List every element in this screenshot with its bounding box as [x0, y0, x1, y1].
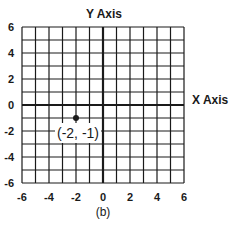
axes — [22, 27, 184, 183]
x-tick-label: 2 — [127, 191, 133, 203]
x-tick-label: -2 — [71, 191, 81, 203]
y-tick-label: -2 — [4, 125, 14, 137]
y-tick-label: 2 — [8, 73, 14, 85]
y-tick-label: 4 — [8, 47, 15, 59]
x-axis-title: X Axis — [192, 93, 229, 107]
y-axis-title: Y Axis — [86, 7, 122, 21]
figure-caption: (b) — [96, 205, 111, 219]
y-tick-label: -4 — [4, 151, 15, 163]
y-tick-label: 6 — [8, 21, 14, 33]
x-tick-label: -6 — [17, 191, 27, 203]
coordinate-plane: -6-4-20246 6420-2-4-6 (-2, -1) Y Axis X … — [0, 0, 233, 227]
point-label: (-2, -1) — [57, 125, 99, 141]
x-tick-label: 6 — [181, 191, 187, 203]
x-tick-label: 0 — [100, 191, 106, 203]
y-tick-labels: 6420-2-4-6 — [4, 21, 15, 189]
y-tick-label: -6 — [4, 177, 14, 189]
x-tick-label: 4 — [154, 191, 161, 203]
x-tick-labels: -6-4-20246 — [17, 191, 187, 203]
data-point — [73, 115, 79, 121]
y-tick-label: 0 — [8, 99, 14, 111]
x-tick-label: -4 — [44, 191, 55, 203]
